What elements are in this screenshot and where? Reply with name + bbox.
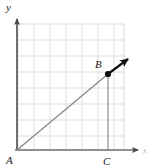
x-axis-label: x — [142, 146, 147, 155]
ray-ab — [17, 74, 108, 150]
y-axis-label: y — [5, 1, 11, 13]
point-label-c: C — [103, 155, 111, 167]
point-label-b: B — [95, 58, 102, 70]
point-b-marker — [105, 71, 111, 77]
figure-canvas: y x A B C — [0, 0, 149, 167]
point-label-a: A — [5, 154, 13, 166]
geometry-figure: y x A B C — [0, 0, 149, 167]
